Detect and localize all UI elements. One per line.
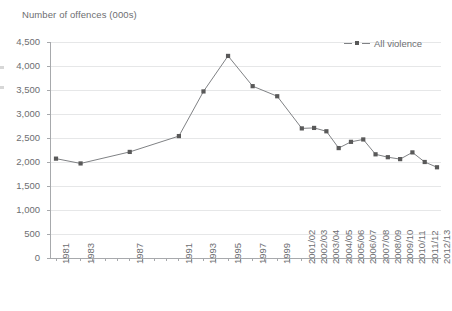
x-axis-tick-label: 2008/09 <box>392 230 403 264</box>
chart-legend: All violence <box>344 38 422 49</box>
x-axis-tick-label: 2009/10 <box>404 230 415 264</box>
y-axis-tick-label: 1,500 <box>2 180 40 191</box>
legend-line-marker-icon <box>344 39 370 48</box>
y-axis-tick-label: 0 <box>2 252 40 263</box>
x-axis-tick-label: 1991 <box>183 243 194 264</box>
x-axis-tick-label: 2012/13 <box>441 230 452 264</box>
gridlines <box>50 42 441 258</box>
y-axis-tick-label: 2,000 <box>2 156 40 167</box>
x-axis-tick-label: 2001/02 <box>306 230 317 264</box>
y-axis-tick-label: 3,500 <box>2 84 40 95</box>
x-axis-tick-label: 2011/12 <box>429 230 440 264</box>
x-axis-tick-label: 2003/04 <box>330 230 341 264</box>
x-axis-tick-label: 2004/05 <box>343 230 354 264</box>
series-markers-all-violence <box>54 54 439 170</box>
y-axis-tick-label: 2,500 <box>2 132 40 143</box>
x-axis-tick-label: 2010/11 <box>416 230 427 264</box>
x-axis-tick-label: 1981 <box>60 243 71 264</box>
legend-label-all-violence: All violence <box>374 38 422 49</box>
x-axis-tick-label: 2005/06 <box>355 230 366 264</box>
x-axis-tick-label: 2002/03 <box>318 230 329 264</box>
x-axis-tick-label: 1999 <box>281 243 292 264</box>
series-line-all-violence <box>56 56 437 167</box>
y-axis-tick-label: 500 <box>2 228 40 239</box>
x-axis-tick-label: 2006/07 <box>367 230 378 264</box>
x-axis-tick-label: 1997 <box>257 243 268 264</box>
y-axis-tick-label: 3,000 <box>2 108 40 119</box>
y-axis-tick-label: 4,000 <box>2 60 40 71</box>
x-axis-tick-label: 1983 <box>85 243 96 264</box>
x-axis-tick-label: 1993 <box>207 243 218 264</box>
x-axis-tick-label: 1995 <box>232 243 243 264</box>
y-axis-tick-label: 4,500 <box>2 36 40 47</box>
x-axis-tick-label: 1987 <box>134 243 145 264</box>
x-axis-tick-label: 2007/08 <box>380 230 391 264</box>
y-axis-tick-label: 1,000 <box>2 204 40 215</box>
